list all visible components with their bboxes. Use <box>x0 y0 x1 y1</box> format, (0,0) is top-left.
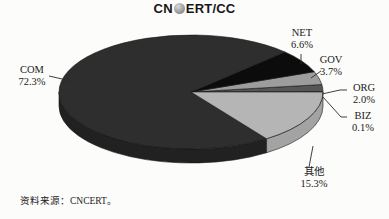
slice-label-net: NET 6.6% <box>283 27 321 51</box>
slice-percent: 72.3% <box>10 76 54 88</box>
slice-name: BIZ <box>342 110 384 122</box>
pie-slices <box>59 35 323 163</box>
slice-label-biz: BIZ 0.1% <box>342 110 384 134</box>
slice-name: GOV <box>312 54 350 66</box>
chart-canvas: CNERT/CC COM 72.3% NET 6.6% GOV 3.7% ORG… <box>0 0 389 219</box>
slice-name: NET <box>283 27 321 39</box>
source-note: 资料来源：CNCERT。 <box>20 193 117 207</box>
slice-name: COM <box>10 64 54 76</box>
slice-label-com: COM 72.3% <box>10 64 54 88</box>
slice-name: ORG <box>343 82 385 94</box>
slice-percent: 15.3% <box>293 178 335 190</box>
slice-percent: 2.0% <box>343 94 385 106</box>
slice-label-org: ORG 2.0% <box>343 82 385 106</box>
slice-percent: 0.1% <box>342 122 384 134</box>
slice-label-gov: GOV 3.7% <box>312 54 350 78</box>
slice-percent: 6.6% <box>283 39 321 51</box>
slice-label-other: 其他 15.3% <box>293 166 335 190</box>
slice-percent: 3.7% <box>312 66 350 78</box>
slice-name: 其他 <box>293 166 335 178</box>
leader-line-other <box>309 146 313 167</box>
